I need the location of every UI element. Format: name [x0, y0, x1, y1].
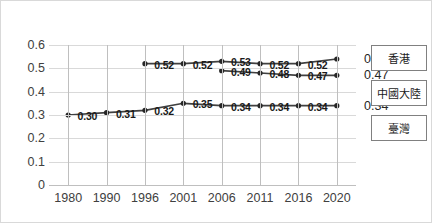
x-axis-tick-label: 2006 [208, 191, 236, 205]
vertical-gridline [222, 45, 223, 185]
y-axis-tick-label: 0.4 [5, 85, 45, 99]
vertical-gridline [298, 45, 299, 185]
data-point-label: 0.47 [308, 70, 328, 82]
y-axis-tick-label: 0.3 [5, 108, 45, 122]
plot-area: 0.520.520.530.520.520.540.490.480.470.47… [49, 45, 356, 185]
data-point-label: 0.52 [193, 59, 213, 71]
chart-legend: 香港 中國大陸 臺灣 [371, 45, 427, 150]
gridline [49, 45, 356, 46]
x-axis-tick-label: 1996 [131, 191, 159, 205]
x-axis: 19801990199620012006201120162020 [49, 191, 356, 213]
x-axis-tick-label: 1990 [93, 191, 121, 205]
y-axis-tick-label: 0.5 [5, 61, 45, 75]
legend-item-hong-kong[interactable]: 香港 [371, 45, 427, 71]
data-point-label: 0.52 [154, 59, 174, 71]
data-point-label: 0.31 [116, 108, 136, 120]
data-point-label: 0.34 [308, 101, 328, 113]
data-point-label: 0.32 [154, 105, 174, 117]
x-axis-tick-label: 2016 [285, 191, 313, 205]
gridline [49, 138, 356, 139]
data-point-label: 0.34 [269, 101, 289, 113]
y-axis-tick-label: 0.2 [5, 131, 45, 145]
vertical-gridline [260, 45, 261, 185]
data-point-label: 0.35 [193, 98, 213, 110]
y-axis-tick-label: 0.1 [5, 155, 45, 169]
vertical-gridline [145, 45, 146, 185]
chart-container: 00.10.20.30.40.50.6 0.520.520.530.520.52… [0, 0, 432, 223]
vertical-gridline [183, 45, 184, 185]
x-axis-tick-label: 2020 [323, 191, 351, 205]
vertical-gridline [337, 45, 338, 185]
y-axis-tick-label: 0 [5, 178, 45, 192]
data-point-label: 0.30 [78, 110, 98, 122]
gridline [49, 92, 356, 93]
x-axis-tick-label: 2011 [247, 191, 274, 205]
data-point-label: 0.34 [231, 101, 251, 113]
vertical-gridline [68, 45, 69, 185]
gridline [49, 162, 356, 163]
data-point-label: 0.49 [231, 66, 251, 78]
vertical-gridline [107, 45, 108, 185]
legend-item-mainland-china[interactable]: 中國大陸 [371, 80, 427, 106]
x-axis-tick-label: 1980 [54, 191, 82, 205]
y-axis: 00.10.20.30.40.50.6 [1, 45, 45, 185]
y-axis-tick-label: 0.6 [5, 38, 45, 52]
data-point-label: 0.52 [308, 59, 328, 71]
x-axis-tick-label: 2001 [169, 191, 197, 205]
gridline [49, 185, 356, 186]
legend-item-taiwan[interactable]: 臺灣 [371, 115, 427, 141]
data-point-label: 0.48 [269, 68, 289, 80]
